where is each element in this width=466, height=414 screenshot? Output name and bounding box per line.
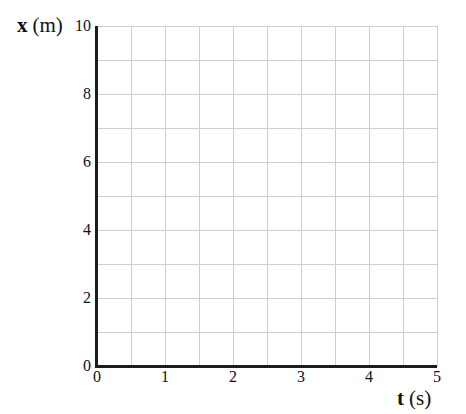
x-axis-unit: (s) [409, 386, 431, 410]
y-tick-label: 2 [40, 289, 91, 307]
x-tick-labels: 0 1 2 3 4 5 [89, 368, 445, 386]
y-axis-symbol: x [17, 13, 28, 37]
y-tick-labels: 10 8 6 4 2 0 [40, 17, 91, 375]
y-tick-label: 10 [40, 17, 91, 35]
x-axis-label: t(s) [397, 386, 431, 410]
x-tick-label: 5 [429, 368, 445, 386]
y-tick-label: 4 [40, 221, 91, 239]
x-axis-symbol: t [397, 386, 404, 410]
x-tick-label: 4 [361, 368, 377, 386]
y-tick-label: 6 [40, 153, 91, 171]
grid-area [97, 26, 438, 367]
position-time-graph: x(m) 10 8 6 4 2 0 0 1 2 3 4 5 t(s) [0, 0, 466, 414]
x-tick-label: 2 [225, 368, 241, 386]
x-tick-label: 0 [89, 368, 105, 386]
x-tick-label: 3 [293, 368, 309, 386]
y-tick-label: 8 [40, 85, 91, 103]
y-axis-line [95, 26, 98, 368]
x-tick-label: 1 [157, 368, 173, 386]
y-tick-label: 0 [40, 357, 91, 375]
